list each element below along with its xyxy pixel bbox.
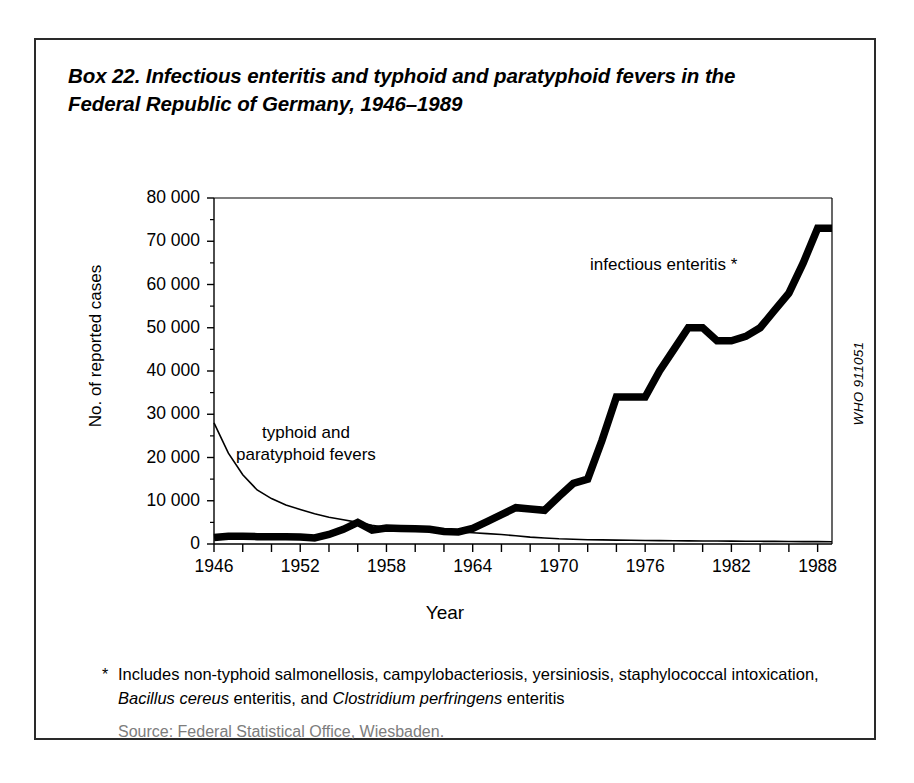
footnote: * Includes non-typhoid salmonellosis, ca… xyxy=(102,662,872,710)
footnote-text: Includes non-typhoid salmonellosis, camp… xyxy=(102,662,872,710)
footnote-species-2: Clostridium perfringens xyxy=(333,689,503,707)
source-line: Source: Federal Statistical Office, Wies… xyxy=(118,723,444,741)
footnote-species-1: Bacillus cereus xyxy=(118,689,229,707)
line-chart-plot xyxy=(50,140,860,640)
tick-marks xyxy=(207,198,818,552)
annotation-typhoid-paratyphoid: typhoid and paratyphoid fevers xyxy=(236,422,376,466)
box-frame: Box 22. Infectious enteritis and typhoid… xyxy=(34,38,876,740)
footnote-part-1: Includes non-typhoid salmonellosis, camp… xyxy=(118,665,819,683)
footnote-part-3: enteritis xyxy=(502,689,564,707)
chart-area: No. of reported cases Year WHO 911051 01… xyxy=(50,140,860,640)
series-lines xyxy=(214,228,832,541)
box-title: Box 22. Infectious enteritis and typhoid… xyxy=(68,62,808,118)
footnote-part-2: enteritis, and xyxy=(229,689,333,707)
footnote-marker: * xyxy=(102,663,108,687)
axis-frame xyxy=(214,198,832,544)
annotation-infectious-enteritis: infectious enteritis * xyxy=(590,254,737,276)
